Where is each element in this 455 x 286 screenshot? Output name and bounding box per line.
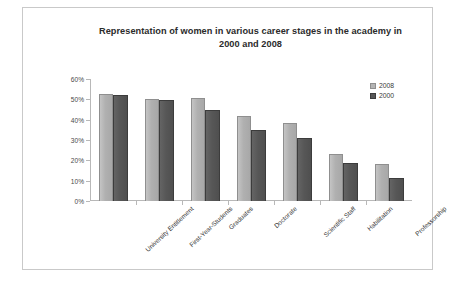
bar-2008-habilitation bbox=[329, 154, 344, 201]
y-tick-mark bbox=[86, 181, 90, 182]
x-tick-mark bbox=[182, 201, 183, 205]
bar-2000-scientific-staff bbox=[297, 138, 312, 201]
legend-label-2000: 2000 bbox=[379, 92, 394, 100]
bar-2008-first-year-students bbox=[145, 99, 160, 201]
y-tick-label: 30% bbox=[71, 137, 84, 144]
y-tick-mark bbox=[86, 201, 90, 202]
bar-2008-graduates bbox=[191, 98, 206, 201]
chart-title-line-2: 2000 and 2008 bbox=[63, 38, 438, 51]
legend-item-2008: 2008 bbox=[370, 81, 394, 91]
legend-swatch-2000-icon bbox=[370, 93, 376, 99]
x-axis-label-doctorate: Doctorate bbox=[273, 205, 298, 229]
x-axis-label-habilitation: Habilitation bbox=[366, 205, 394, 232]
x-axis-label-first-year-students: First-Year-Students bbox=[188, 205, 234, 248]
bar-2000-graduates bbox=[205, 110, 220, 202]
chart-legend: 2008 2000 bbox=[370, 81, 394, 101]
bar-2008-doctorate bbox=[237, 116, 252, 201]
y-tick-mark bbox=[86, 140, 90, 141]
legend-label-2008: 2008 bbox=[379, 82, 394, 90]
y-tick-mark bbox=[86, 160, 90, 161]
x-axis-label-university-entitlement: University Entitlement bbox=[144, 205, 195, 253]
chart-title-line-1: Representation of women in various caree… bbox=[63, 25, 438, 38]
y-axis-line bbox=[90, 79, 91, 201]
x-axis-label-professorship: Professorship bbox=[414, 205, 448, 237]
bar-2008-university-entitlement bbox=[99, 94, 114, 201]
x-tick-mark bbox=[320, 201, 321, 205]
chart-image-frame: Representation of women in various caree… bbox=[22, 7, 433, 270]
bar-2000-doctorate bbox=[251, 130, 266, 201]
bar-2000-habilitation bbox=[343, 163, 358, 201]
bar-2000-professorship bbox=[389, 178, 404, 201]
y-tick-mark bbox=[86, 79, 90, 80]
plot-area: 0%10%20%30%40%50%60% University Entitlem… bbox=[90, 79, 412, 201]
bar-2008-scientific-staff bbox=[283, 123, 298, 201]
bar-2008-professorship bbox=[375, 164, 390, 201]
y-tick-label: 50% bbox=[71, 96, 84, 103]
x-axis-label-scientific-staff: Scientific Staff bbox=[322, 205, 357, 238]
legend-swatch-2008-icon bbox=[370, 83, 376, 89]
bar-2000-first-year-students bbox=[159, 100, 174, 201]
x-tick-mark bbox=[366, 201, 367, 205]
chart-title: Representation of women in various caree… bbox=[63, 25, 438, 51]
x-tick-mark bbox=[136, 201, 137, 205]
y-tick-label: 60% bbox=[71, 76, 84, 83]
legend-item-2000: 2000 bbox=[370, 91, 394, 101]
y-tick-label: 10% bbox=[71, 177, 84, 184]
y-tick-label: 20% bbox=[71, 157, 84, 164]
y-tick-mark bbox=[86, 120, 90, 121]
x-tick-mark bbox=[274, 201, 275, 205]
y-tick-label: 0% bbox=[74, 198, 84, 205]
y-tick-label: 40% bbox=[71, 116, 84, 123]
bar-2000-university-entitlement bbox=[113, 95, 128, 201]
screenshot-root: Representation of women in various caree… bbox=[0, 0, 455, 286]
y-tick-mark bbox=[86, 99, 90, 100]
